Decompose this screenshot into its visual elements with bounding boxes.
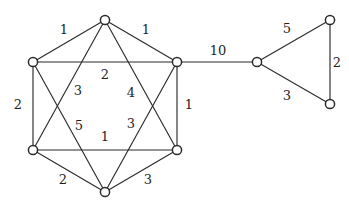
nodes-layer (28, 15, 334, 196)
edge-weight-label: 3 (283, 88, 291, 103)
edge-weight-label: 2 (101, 67, 109, 82)
graph-node (325, 15, 334, 24)
edge-weight-label: 2 (14, 97, 22, 112)
graph-node (28, 145, 37, 154)
graph-edge (109, 152, 173, 189)
graph-node (100, 187, 109, 196)
graph-node (100, 15, 109, 24)
edge-weight-label: 2 (59, 172, 67, 187)
edge-weight-label: 3 (127, 116, 135, 131)
edge-weight-label: 5 (283, 21, 291, 36)
graph-edge (37, 152, 101, 189)
graph-edge (261, 22, 326, 59)
graph-node (252, 57, 261, 66)
edge-weight-label: 10 (210, 43, 227, 58)
graph-edge (261, 64, 326, 101)
edge-weight-label: 2 (333, 55, 341, 70)
edge-weight-label: 3 (74, 83, 82, 98)
graph-canvas: 11212321345310523 (0, 0, 349, 216)
edge-weight-label: 1 (60, 22, 68, 37)
graph-edge (37, 22, 101, 59)
edge-weight-label: 5 (75, 118, 83, 133)
graph-node (172, 145, 181, 154)
edges-layer (33, 22, 330, 189)
graph-figure: 11212321345310523 (0, 0, 349, 216)
edge-weight-label: 1 (101, 129, 109, 144)
graph-node (325, 99, 334, 108)
edge-weight-label: 1 (142, 22, 150, 37)
edge-weight-label: 4 (127, 85, 135, 100)
edge-weight-label: 3 (144, 172, 152, 187)
graph-node (28, 57, 37, 66)
edge-weight-label: 1 (185, 97, 193, 112)
graph-node (172, 57, 181, 66)
